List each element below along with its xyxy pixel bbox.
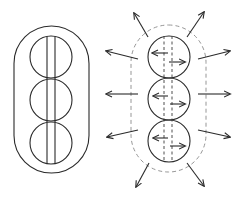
sphere-circle (30, 122, 72, 164)
outward-arrow-icon (106, 51, 138, 59)
outward-arrow-icon (187, 12, 204, 37)
sphere-circle (148, 120, 190, 162)
outward-arrow-icon (198, 130, 230, 137)
sphere-circle (30, 79, 72, 121)
outward-arrow-icon (187, 163, 204, 186)
outward-arrow-icon (136, 163, 149, 187)
sphere-circle (30, 36, 72, 78)
outward-arrow-icon (107, 130, 138, 137)
diagram-canvas (0, 0, 243, 198)
left-panel-solid-structure (14, 26, 89, 173)
right-panel-dashed-structure (106, 12, 230, 187)
outward-arrow-icon (198, 51, 230, 59)
sphere-circle (148, 36, 190, 78)
outward-arrow-icon (134, 13, 148, 37)
diagram-svg (0, 0, 243, 198)
capsule-outline (14, 26, 89, 173)
sphere-circle (148, 78, 190, 120)
capsule-outline (131, 25, 206, 172)
